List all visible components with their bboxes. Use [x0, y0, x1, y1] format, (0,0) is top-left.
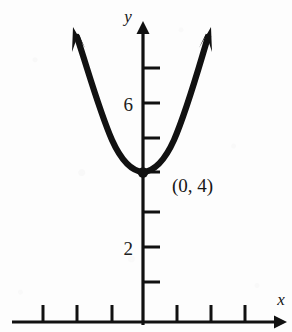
x-axis-label: x	[276, 290, 285, 309]
y-tick-label-2: 2	[124, 238, 134, 259]
vertex-coordinate-label: (0, 4)	[172, 175, 213, 197]
graph-canvas: 6 2 y x (0, 4)	[0, 0, 292, 332]
y-tick-label-6: 6	[124, 94, 134, 115]
parabola-figure: 6 2 y x (0, 4)	[0, 0, 292, 332]
vertex-point-marker	[138, 167, 148, 177]
y-axis-label: y	[122, 7, 132, 26]
x-axis-arrowhead	[274, 316, 287, 329]
y-axis-arrowhead	[137, 21, 150, 34]
x-axis-group	[12, 305, 287, 329]
